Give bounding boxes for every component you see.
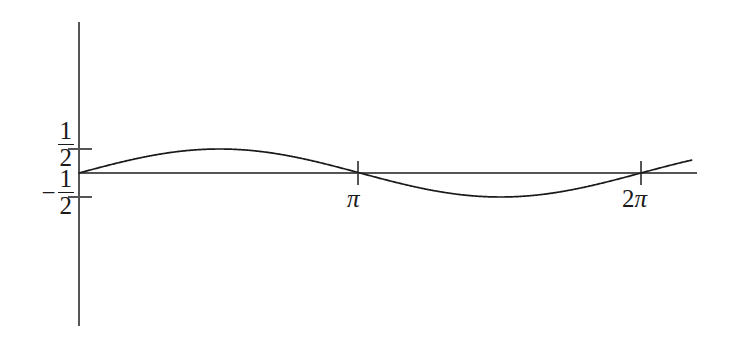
sine-plot-figure: 1 2 − 1 2 π 2π [0,0,737,337]
plot-canvas [0,0,737,337]
y-tick-label-half: 1 2 [40,118,74,171]
pi-glyph: π [347,185,360,212]
pi-lead-number: 2 [622,185,635,212]
fraction-denominator: 2 [58,193,75,219]
x-tick-label-pi: π [347,186,360,211]
pi-glyph: π [635,185,648,212]
y-tick-label-neg-half: − 1 2 [24,166,74,219]
fraction-one-half: 1 2 [58,118,75,171]
fraction-numerator: 1 [58,118,75,145]
fraction-numerator: 1 [58,166,75,193]
minus-sign-icon: − [41,180,55,205]
x-tick-label-two-pi: 2π [622,186,647,211]
fraction-one-half: 1 2 [58,166,75,219]
